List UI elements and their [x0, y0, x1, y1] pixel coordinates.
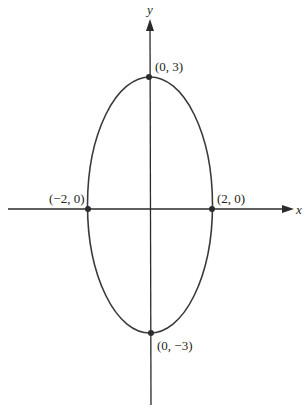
- point-bottom: [148, 330, 154, 336]
- label-left: (−2, 0): [49, 191, 85, 206]
- y-axis: [150, 28, 151, 405]
- y-axis-label: y: [145, 2, 153, 17]
- x-axis-arrow-icon: [282, 205, 294, 213]
- point-top: [146, 74, 152, 80]
- x-axis-label: x: [295, 202, 302, 217]
- y-axis-arrow-icon: [146, 19, 154, 31]
- diagram-svg: x y (0, 3) (−2, 0) (2, 0) (0, −3): [0, 0, 307, 408]
- point-right: [209, 206, 215, 212]
- point-left: [85, 206, 91, 212]
- label-bottom: (0, −3): [157, 338, 193, 353]
- label-top: (0, 3): [155, 59, 183, 74]
- label-right: (2, 0): [217, 191, 245, 206]
- ellipse-diagram: x y (0, 3) (−2, 0) (2, 0) (0, −3): [0, 0, 307, 408]
